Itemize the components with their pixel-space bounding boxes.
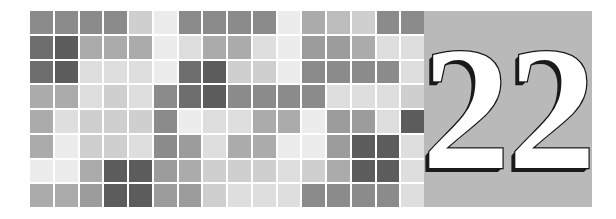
- mosaic-cell: [179, 36, 202, 59]
- mosaic-cell: [129, 11, 152, 34]
- mosaic-cell: [401, 61, 424, 84]
- mosaic-cell: [327, 85, 350, 108]
- mosaic-cell: [302, 110, 325, 133]
- mosaic-cell: [228, 184, 251, 207]
- mosaic-cell: [278, 110, 301, 133]
- mosaic-cell: [104, 61, 127, 84]
- mosaic-cell: [401, 135, 424, 158]
- mosaic-cell: [179, 85, 202, 108]
- mosaic-cell: [30, 36, 53, 59]
- mosaic-cell: [203, 160, 226, 183]
- mosaic-cell: [352, 110, 375, 133]
- mosaic-cell: [179, 61, 202, 84]
- mosaic-cell: [302, 160, 325, 183]
- mosaic-cell: [253, 61, 276, 84]
- mosaic-cell: [154, 85, 177, 108]
- mosaic-cell: [352, 135, 375, 158]
- mosaic-cell: [30, 110, 53, 133]
- mosaic-cell: [401, 85, 424, 108]
- mosaic-cell: [154, 135, 177, 158]
- mosaic-cell: [253, 160, 276, 183]
- mosaic-cell: [129, 61, 152, 84]
- mosaic-cell: [104, 36, 127, 59]
- mosaic-cell: [327, 160, 350, 183]
- mosaic-cell: [55, 36, 78, 59]
- mosaic-cell: [302, 184, 325, 207]
- mosaic-cell: [377, 110, 400, 133]
- chapter-opener-banner: 22: [0, 0, 616, 219]
- mosaic-cell: [179, 135, 202, 158]
- mosaic-cell: [154, 110, 177, 133]
- mosaic-cell: [55, 11, 78, 34]
- mosaic-cell: [154, 61, 177, 84]
- mosaic-cell: [104, 184, 127, 207]
- mosaic-cell: [55, 135, 78, 158]
- mosaic-cell: [352, 61, 375, 84]
- mosaic-cell: [30, 160, 53, 183]
- mosaic-cell: [278, 135, 301, 158]
- mosaic-cell: [80, 110, 103, 133]
- mosaic-cell: [401, 160, 424, 183]
- mosaic-cell: [129, 110, 152, 133]
- mosaic-cell: [253, 36, 276, 59]
- mosaic-cell: [154, 160, 177, 183]
- mosaic-cell: [80, 61, 103, 84]
- mosaic-cell: [377, 61, 400, 84]
- mosaic-cell: [154, 184, 177, 207]
- mosaic-cell: [377, 11, 400, 34]
- mosaic-cell: [278, 85, 301, 108]
- mosaic-cell: [179, 110, 202, 133]
- mosaic-cell: [30, 61, 53, 84]
- mosaic-cell: [104, 160, 127, 183]
- mosaic-cell: [253, 135, 276, 158]
- mosaic-cell: [401, 110, 424, 133]
- mosaic-cell: [327, 184, 350, 207]
- mosaic-heatmap-panel: [30, 11, 424, 207]
- mosaic-cell: [154, 36, 177, 59]
- mosaic-cell: [253, 184, 276, 207]
- mosaic-cell: [228, 36, 251, 59]
- mosaic-cell: [278, 61, 301, 84]
- mosaic-cell: [352, 11, 375, 34]
- mosaic-cell: [401, 36, 424, 59]
- mosaic-cell: [253, 11, 276, 34]
- mosaic-cell: [228, 85, 251, 108]
- mosaic-cell: [129, 36, 152, 59]
- mosaic-cell: [377, 36, 400, 59]
- mosaic-cell: [30, 85, 53, 108]
- mosaic-cell: [203, 110, 226, 133]
- mosaic-cell: [352, 184, 375, 207]
- mosaic-cell: [80, 85, 103, 108]
- mosaic-cell: [377, 160, 400, 183]
- mosaic-cell: [302, 36, 325, 59]
- mosaic-cell: [203, 85, 226, 108]
- mosaic-cell: [30, 11, 53, 34]
- mosaic-cell: [377, 135, 400, 158]
- mosaic-cell: [129, 160, 152, 183]
- mosaic-cell: [302, 85, 325, 108]
- mosaic-cell: [228, 110, 251, 133]
- mosaic-cell: [253, 85, 276, 108]
- mosaic-cell: [327, 135, 350, 158]
- mosaic-cell: [228, 135, 251, 158]
- mosaic-cell: [55, 61, 78, 84]
- mosaic-cell: [352, 36, 375, 59]
- mosaic-cell: [278, 160, 301, 183]
- mosaic-grid: [30, 11, 424, 207]
- mosaic-cell: [80, 135, 103, 158]
- mosaic-cell: [30, 184, 53, 207]
- mosaic-cell: [80, 184, 103, 207]
- mosaic-cell: [104, 85, 127, 108]
- mosaic-cell: [203, 184, 226, 207]
- mosaic-cell: [302, 61, 325, 84]
- mosaic-cell: [228, 11, 251, 34]
- mosaic-cell: [55, 160, 78, 183]
- chapter-number-plate: 22: [424, 11, 592, 207]
- mosaic-cell: [352, 85, 375, 108]
- mosaic-cell: [253, 110, 276, 133]
- mosaic-cell: [179, 160, 202, 183]
- mosaic-cell: [203, 11, 226, 34]
- mosaic-cell: [302, 11, 325, 34]
- mosaic-cell: [327, 11, 350, 34]
- mosaic-cell: [104, 135, 127, 158]
